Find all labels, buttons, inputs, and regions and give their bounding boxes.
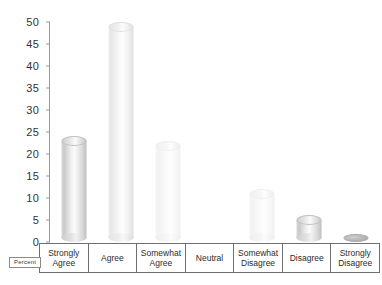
bar-slot[interactable] xyxy=(286,10,333,242)
bar-body xyxy=(61,141,86,238)
bar-agree[interactable] xyxy=(108,22,133,242)
chart-container: 05101520253035404550 StronglyAgreeAgreeS… xyxy=(0,0,382,285)
category-label-text: SomewhatAgree xyxy=(141,248,181,268)
bar-base-ellipse xyxy=(61,233,86,242)
category-label-table: StronglyAgreeAgreeSomewhatAgreeNeutralSo… xyxy=(39,243,380,273)
bar-strongly-disagree[interactable] xyxy=(344,234,369,242)
bar-slot[interactable] xyxy=(50,10,97,242)
y-axis-tick-label: 35 xyxy=(26,83,39,94)
bar-slot[interactable] xyxy=(144,10,191,242)
bar-strongly-agree[interactable] xyxy=(61,136,86,242)
bar-slot[interactable] xyxy=(97,10,144,242)
category-label-neutral[interactable]: Neutral xyxy=(186,244,235,272)
bar-slot[interactable] xyxy=(239,10,286,242)
category-label-text: StronglyAgree xyxy=(48,248,79,268)
y-axis-tick-label: 15 xyxy=(26,171,39,182)
bar-base-ellipse xyxy=(155,233,180,242)
category-label-text: Neutral xyxy=(196,253,223,263)
bar-base-ellipse xyxy=(250,233,275,242)
category-label-disagree[interactable]: Disagree xyxy=(283,244,332,272)
bar-somewhat-agree[interactable] xyxy=(155,141,180,242)
bar-body xyxy=(155,146,180,238)
bar-body xyxy=(250,194,275,238)
bar-top-ellipse xyxy=(297,215,322,225)
bar-base-ellipse xyxy=(108,233,133,242)
bar-top-ellipse xyxy=(344,234,369,242)
bar-base-ellipse xyxy=(297,233,322,242)
category-label-strongly-agree[interactable]: StronglyAgree xyxy=(40,244,89,272)
bar-slot[interactable] xyxy=(333,10,380,242)
y-axis-tick-label: 40 xyxy=(26,61,39,72)
plot-area xyxy=(50,10,380,242)
category-label-strongly-disagree[interactable]: StronglyDisagree xyxy=(331,244,379,272)
y-axis-tick-label: 50 xyxy=(26,17,39,28)
y-axis-tick-label: 10 xyxy=(26,193,39,204)
category-label-somewhat-disagree[interactable]: SomewhatDisagree xyxy=(234,244,283,272)
category-label-text: Disagree xyxy=(290,253,324,263)
bar-slot[interactable] xyxy=(191,10,238,242)
y-axis-tick-label: 20 xyxy=(26,149,39,160)
bar-top-ellipse xyxy=(108,22,133,32)
y-axis-tick-label: 5 xyxy=(33,215,39,226)
y-axis-tick-label: 25 xyxy=(26,127,39,138)
category-label-text: Agree xyxy=(101,253,124,263)
category-label-agree[interactable]: Agree xyxy=(89,244,138,272)
bar-top-ellipse xyxy=(155,141,180,151)
y-axis-tick-label: 45 xyxy=(26,39,39,50)
bar-top-ellipse xyxy=(250,189,275,199)
y-axis-tick-label: 30 xyxy=(26,105,39,116)
bar-top-ellipse xyxy=(61,136,86,146)
bar-somewhat-disagree[interactable] xyxy=(250,189,275,242)
y-axis-title-label: Percent xyxy=(14,259,36,265)
category-label-somewhat-agree[interactable]: SomewhatAgree xyxy=(137,244,186,272)
y-axis-title-box: Percent xyxy=(9,257,41,268)
category-label-text: StronglyDisagree xyxy=(338,248,372,268)
bar-body xyxy=(108,27,133,238)
category-label-text: SomewhatDisagree xyxy=(238,248,278,268)
bar-disagree[interactable] xyxy=(297,215,322,242)
